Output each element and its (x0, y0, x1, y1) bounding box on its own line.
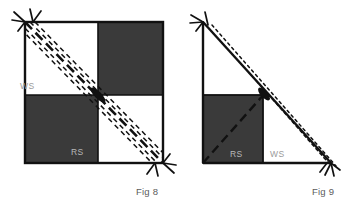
fig8-quadrant-top-right-dark (98, 22, 163, 95)
fig9-caption: Fig 9 (312, 186, 334, 197)
fig8-quadrant-bottom-left-dark (25, 95, 98, 163)
fig8-rs-label: RS (71, 147, 84, 157)
figure-fig8: WS RS (12, 9, 176, 176)
figure-fig9: RS WS (190, 12, 340, 176)
fig9-thread-tail-bottom-right (320, 163, 340, 176)
fig8-ws-label: WS (20, 81, 35, 91)
diagram-canvas: WS RS (0, 0, 350, 210)
fig8-caption: Fig 8 (136, 186, 158, 197)
fig9-rs-label: RS (230, 149, 243, 159)
fig9-ws-label: WS (270, 149, 285, 159)
diagram-stage: WS RS (0, 0, 350, 210)
